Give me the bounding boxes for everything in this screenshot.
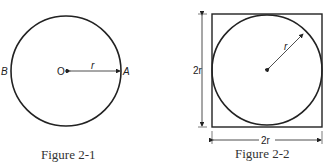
- diagram-canvas: B O A r r 2r 2r: [0, 0, 331, 167]
- figure-2-1-caption: Figure 2-1: [41, 147, 96, 163]
- width-label: 2r: [261, 135, 271, 146]
- center-point: [265, 68, 269, 72]
- radius-label: r: [284, 41, 288, 52]
- height-label: 2r: [193, 65, 203, 76]
- radius-label: r: [91, 60, 95, 71]
- center-o-label: O: [57, 66, 65, 77]
- figure-2-2: r 2r 2r: [193, 14, 322, 146]
- point-b-label: B: [1, 66, 8, 77]
- figure-2-1: B O A r: [1, 16, 130, 126]
- figure-2-2-caption: Figure 2-2: [235, 146, 290, 162]
- center-point: [65, 69, 69, 73]
- point-a-label: A: [122, 66, 130, 77]
